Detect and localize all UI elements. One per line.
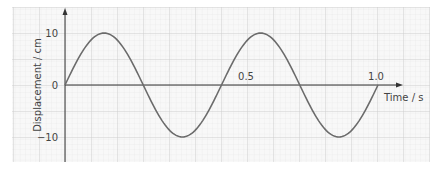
y-tick-neg10: −10 [37,132,58,143]
y-tick-0: 0 [52,80,58,91]
x-tick-0-5: 0.5 [238,71,254,82]
y-tick-10: 10 [45,28,58,39]
x-tick-1-0: 1.0 [368,71,384,82]
y-axis-title: Displacement / cm [32,38,43,132]
displacement-time-graph: 10 0 −10 0.5 1.0 Time / s Displacement /… [0,0,435,170]
x-axis-title: Time / s [383,92,423,103]
